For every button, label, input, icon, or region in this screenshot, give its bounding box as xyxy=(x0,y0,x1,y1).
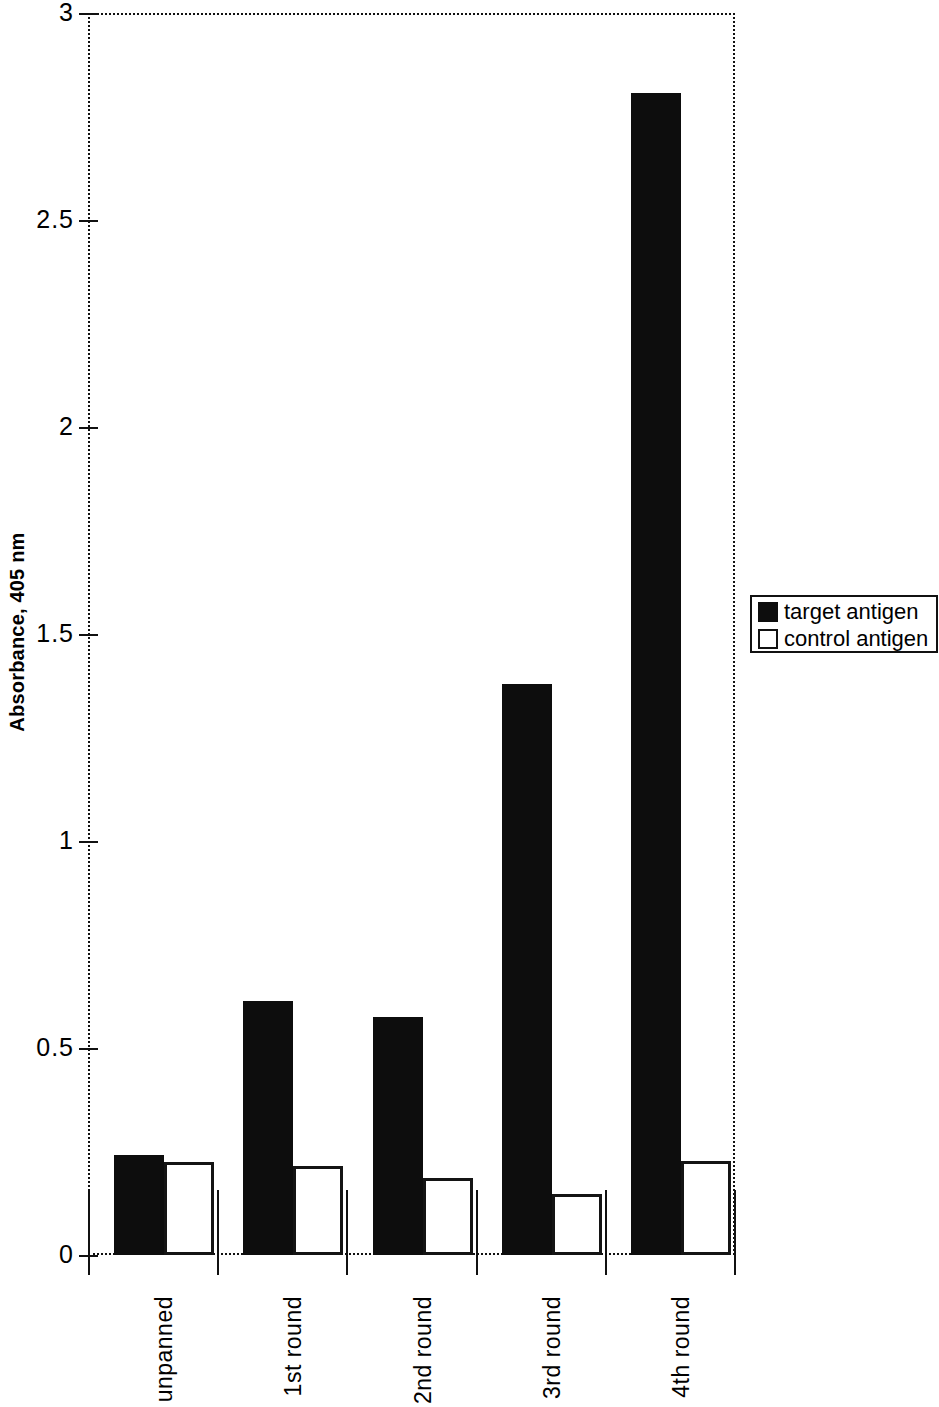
bar-control-4th-round xyxy=(681,1161,731,1255)
y-axis-tick-labels: 0 0.5 1 1.5 2 2.5 3 xyxy=(0,0,74,1376)
category-separator-left xyxy=(88,1190,90,1255)
x-tick-mark-1 xyxy=(217,1255,219,1275)
bar-control-unpanned xyxy=(164,1162,214,1255)
bar-target-3rd-round xyxy=(502,684,552,1255)
filled-square-icon xyxy=(758,602,778,622)
category-separator-3 xyxy=(476,1190,478,1255)
x-tick-mark-0 xyxy=(88,1255,90,1275)
y-tick-label-2_5: 2.5 xyxy=(6,207,74,232)
bar-target-unpanned xyxy=(114,1155,164,1255)
category-separator-4 xyxy=(605,1190,607,1255)
x-tick-mark-5 xyxy=(734,1255,736,1275)
x-category-label-1st-round: 1st round xyxy=(280,1296,306,1407)
bar-target-4th-round xyxy=(631,93,681,1255)
bar-control-1st-round xyxy=(293,1166,343,1255)
legend-label-target-antigen: target antigen xyxy=(784,601,919,623)
bar-control-2nd-round xyxy=(423,1178,473,1255)
outlined-square-icon xyxy=(758,629,778,649)
y-tick-label-0_5: 0.5 xyxy=(6,1035,74,1060)
x-category-label-unpanned: unpanned xyxy=(151,1296,177,1407)
bar-target-2nd-round xyxy=(373,1017,423,1255)
y-tick-label-3: 3 xyxy=(6,0,74,25)
x-tick-mark-4 xyxy=(605,1255,607,1275)
bar-control-3rd-round xyxy=(552,1194,602,1255)
legend-entry-control-antigen: control antigen xyxy=(758,626,936,652)
bar-target-1st-round xyxy=(243,1001,293,1255)
category-separator-1 xyxy=(217,1190,219,1255)
x-category-label-2nd-round: 2nd round xyxy=(410,1296,436,1407)
y-tick-label-2: 2 xyxy=(6,414,74,439)
category-separator-2 xyxy=(346,1190,348,1255)
x-category-label-4th-round: 4th round xyxy=(668,1296,694,1407)
y-tick-label-1_5: 1.5 xyxy=(6,621,74,646)
x-tick-mark-3 xyxy=(476,1255,478,1275)
category-separator-right xyxy=(734,1190,736,1255)
y-tick-label-0: 0 xyxy=(6,1242,74,1267)
legend-label-control-antigen: control antigen xyxy=(784,628,928,650)
chart-legend: target antigen control antigen xyxy=(750,595,938,653)
y-tick-label-1: 1 xyxy=(6,828,74,853)
legend-entry-target-antigen: target antigen xyxy=(758,599,936,625)
x-category-label-3rd-round: 3rd round xyxy=(539,1296,565,1407)
x-tick-mark-2 xyxy=(346,1255,348,1275)
